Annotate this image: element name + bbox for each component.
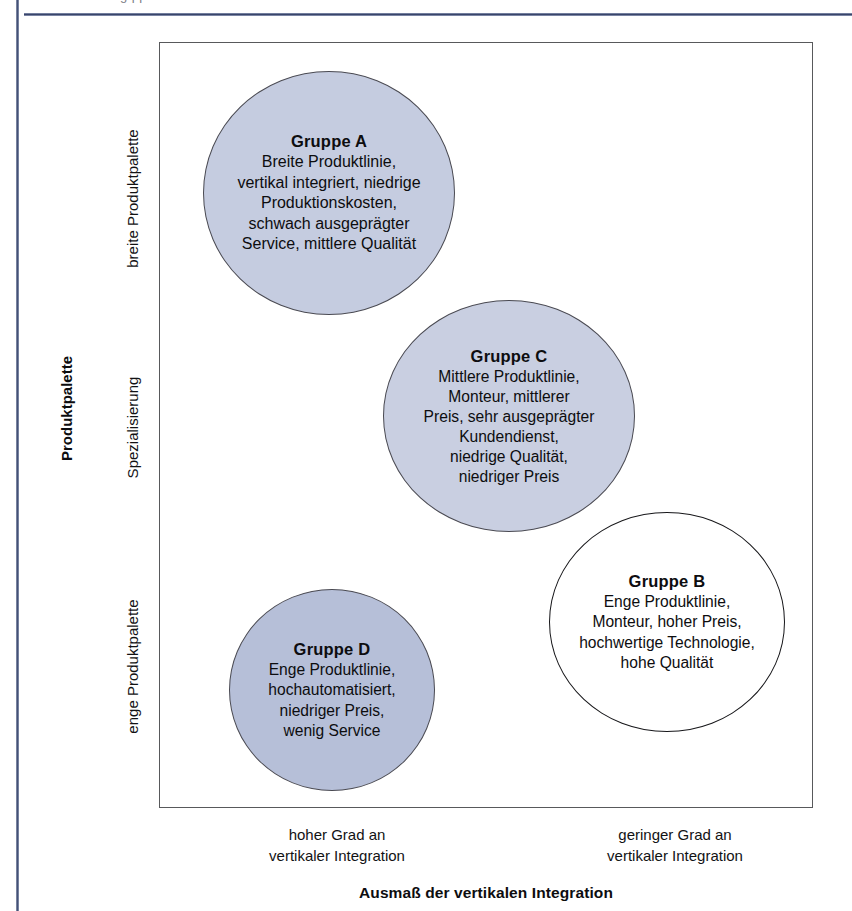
x-axis-title: Ausmaß der vertikalen Integration xyxy=(159,884,813,902)
x-axis-tick-high-integration: hoher Grad an vertikaler Integration xyxy=(222,824,452,866)
bubble-description-b: Enge Produktlinie, Monteur, hoher Preis,… xyxy=(579,592,755,674)
bubble-description-a: Breite Produktlinie, vertikal integriert… xyxy=(237,152,420,255)
x-axis-tick-low-integration: geringer Grad an vertikaler Integration xyxy=(560,824,790,866)
y-axis-tick-narrow: enge Produktpalette xyxy=(124,557,141,777)
bubble-gruppe-a[interactable]: Gruppe A Breite Produktlinie, vertikal i… xyxy=(203,71,455,315)
cut-off-header-text: g pp xyxy=(120,0,147,3)
y-axis-tick-specialization: Spezialisierung xyxy=(124,318,141,538)
y-axis-title: Produktpalette xyxy=(58,329,75,489)
bubble-title-b: Gruppe B xyxy=(629,571,706,591)
bubble-description-d: Enge Produktlinie, hochautomatisiert, ni… xyxy=(268,660,395,742)
bubble-description-c: Mittlere Produktlinie, Monteur, mittlere… xyxy=(424,367,595,487)
bubble-title-c: Gruppe C xyxy=(471,346,548,366)
figure-page: g pp Produktpalette breite Produktpalett… xyxy=(0,0,852,911)
bubble-gruppe-c[interactable]: Gruppe C Mittlere Produktlinie, Monteur,… xyxy=(383,300,635,532)
left-margin-rule xyxy=(16,0,19,911)
bubble-title-d: Gruppe D xyxy=(294,639,371,659)
bubble-gruppe-d[interactable]: Gruppe D Enge Produktlinie, hochautomati… xyxy=(229,589,435,791)
top-horizontal-rule xyxy=(24,13,852,16)
bubble-title-a: Gruppe A xyxy=(291,131,367,151)
y-axis-tick-broad: breite Produktpalette xyxy=(124,89,141,309)
bubble-gruppe-b[interactable]: Gruppe B Enge Produktlinie, Monteur, hoh… xyxy=(549,512,785,732)
